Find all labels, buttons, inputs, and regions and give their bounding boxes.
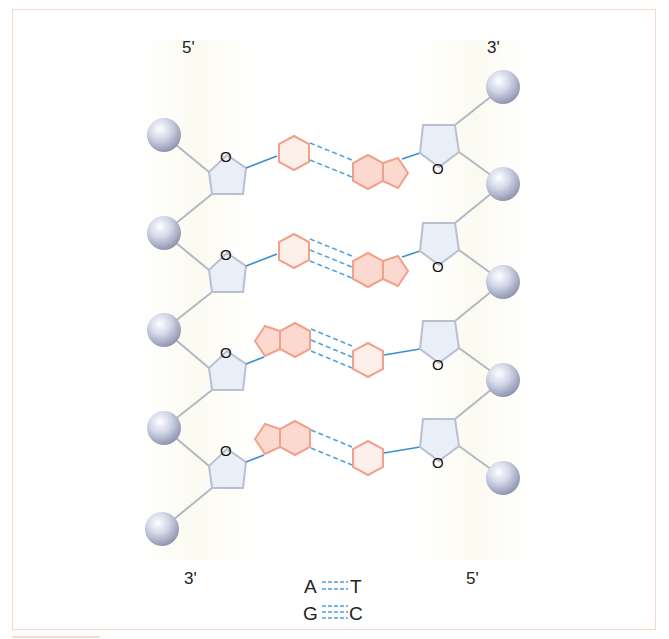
legend-guanine: G [303, 603, 318, 624]
purine-base [255, 421, 310, 455]
phosphate-icon [147, 313, 181, 347]
hydrogen-bonds [310, 143, 352, 177]
phosphate-icon [486, 167, 520, 201]
hydrogen-bonds [311, 329, 352, 368]
sugar-oxygen-label: O [220, 148, 232, 165]
base-pair-legend: A T G C [303, 576, 363, 624]
sugar-oxygen-label: O [220, 442, 232, 459]
phosphate-icon [486, 265, 520, 299]
pyrimidine-base [279, 234, 309, 268]
sugar-oxygen-label: O [220, 246, 232, 263]
phosphate-icon [486, 363, 520, 397]
right-strand-top-label: 3' [487, 38, 500, 57]
purine-base [255, 323, 310, 357]
hydrogen-bonds [311, 430, 352, 465]
phosphate-icon [147, 216, 181, 250]
sugar-oxygen-label: O [432, 258, 444, 275]
legend-thymine: T [350, 576, 362, 597]
hydrogen-bonds [310, 239, 352, 278]
phosphate-icon [145, 512, 179, 546]
legend-cytosine: C [349, 603, 363, 624]
sugar-oxygen-label: O [432, 454, 444, 471]
sugar-oxygen-label: O [220, 344, 232, 361]
right-strand-bottom-label: 5' [466, 569, 479, 588]
sugar-oxygen-label: O [432, 160, 444, 177]
pyrimidine-base [353, 441, 383, 475]
phosphate-icon [486, 461, 520, 495]
pyrimidine-base [279, 136, 309, 170]
phosphate-icon [147, 118, 181, 152]
dna-diagram: 5' 3' 3' 5' O [0, 0, 669, 639]
left-strand-bottom-label: 3' [184, 569, 197, 588]
phosphate-icon [147, 411, 181, 445]
purine-base [353, 155, 408, 189]
right-strand-shading [410, 40, 540, 560]
legend-at-bonds [322, 582, 348, 589]
phosphate-icon [486, 70, 520, 104]
left-strand-top-label: 5' [182, 38, 195, 57]
pyrimidine-base [353, 343, 383, 377]
purine-base [353, 253, 408, 287]
sugar-oxygen-label: O [432, 356, 444, 373]
legend-adenine: A [304, 576, 317, 597]
legend-gc-bonds [322, 606, 348, 618]
